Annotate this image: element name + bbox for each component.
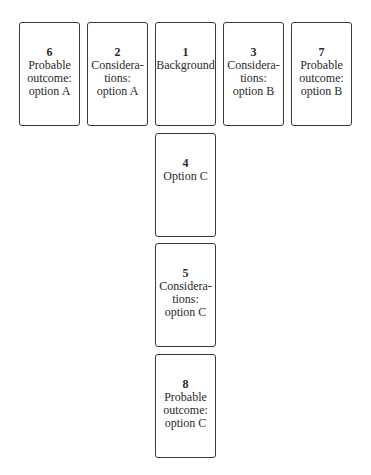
card-label: Probable outcome: option C (156, 391, 215, 430)
card-5-considerations-option-c: 5 Considera- tions: option C (155, 243, 216, 347)
card-7-probable-outcome-option-b: 7 Probable outcome: option B (291, 22, 352, 126)
card-label: Option C (156, 170, 215, 183)
card-1-background: 1 Background (155, 22, 216, 126)
card-label: Background (156, 59, 215, 72)
card-2-considerations-option-a: 2 Considera- tions: option A (87, 22, 148, 126)
card-label: Considera- tions: option C (156, 280, 215, 319)
card-4-option-c: 4 Option C (155, 133, 216, 237)
card-6-probable-outcome-option-a: 6 Probable outcome: option A (19, 22, 80, 126)
card-label: Probable outcome: option B (292, 59, 351, 98)
card-label: Probable outcome: option A (20, 59, 79, 98)
card-label: Considera- tions: option A (88, 59, 147, 98)
card-label: Considera- tions: option B (224, 59, 283, 98)
card-8-probable-outcome-option-c: 8 Probable outcome: option C (155, 354, 216, 458)
card-3-considerations-option-b: 3 Considera- tions: option B (223, 22, 284, 126)
